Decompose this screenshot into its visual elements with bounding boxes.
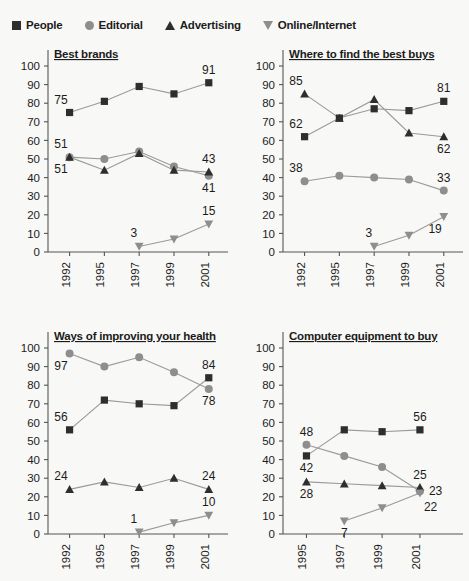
triangle-down-marker-icon (263, 21, 273, 30)
series-data-point (378, 463, 386, 471)
chart-title: Best brands (54, 48, 118, 60)
series-data-point (170, 90, 177, 97)
data-point-label: 38 (289, 161, 303, 175)
series-data-point (440, 98, 447, 105)
y-axis-tick-label: 10 (27, 228, 40, 240)
data-point-label: 78 (202, 394, 216, 408)
x-axis-tick-label: 1992 (60, 262, 72, 288)
series-data-point (205, 79, 212, 86)
series-data-point (302, 478, 311, 486)
y-axis-tick-label: 30 (27, 472, 40, 484)
series-data-point (204, 485, 213, 493)
data-point-label: 41 (202, 181, 216, 195)
series-data-point (100, 478, 109, 486)
y-axis-tick-label: 40 (27, 454, 40, 466)
series-data-point (405, 232, 414, 240)
data-point-label: 62 (437, 142, 451, 156)
data-point-label: 51 (54, 137, 68, 151)
y-axis-tick-label: 80 (27, 97, 40, 109)
x-axis-tick-label: 1992 (295, 262, 307, 288)
series-data-point (439, 213, 448, 221)
data-point-label: 10 (202, 495, 216, 509)
y-axis-tick-label: 20 (262, 209, 275, 221)
x-axis-tick-label: 1999 (164, 544, 176, 570)
x-axis-tick-label: 1997 (129, 262, 141, 288)
data-point-label: 15 (202, 204, 216, 218)
series-data-point (135, 529, 144, 537)
series-data-point (405, 107, 412, 114)
series-data-point (205, 374, 212, 381)
chart-title: Computer equipment to buy (289, 330, 438, 342)
series-data-point (370, 95, 379, 103)
y-axis-tick-label: 0 (34, 246, 40, 258)
data-point-label: 33 (437, 171, 451, 185)
series-data-point (340, 517, 349, 525)
chart-title: Where to find the best buys (289, 48, 434, 60)
y-axis-tick-label: 100 (256, 342, 275, 354)
y-axis-tick-label: 100 (256, 60, 275, 72)
x-axis-tick-label: 1999 (399, 262, 411, 288)
series-data-point (379, 428, 386, 435)
legend-label-online: Online/Internet (278, 19, 356, 31)
y-axis-tick-label: 50 (27, 435, 40, 447)
y-axis-tick-label: 10 (27, 510, 40, 522)
series-data-point (170, 474, 179, 482)
series-data-point (170, 402, 177, 409)
triangle-up-marker-icon (165, 21, 175, 30)
legend-item-advertising: Advertising (165, 19, 241, 31)
data-point-label: 19 (428, 222, 442, 236)
x-axis-tick-label: 1999 (372, 544, 384, 570)
series-data-point (440, 187, 448, 195)
y-axis-tick-label: 60 (262, 417, 275, 429)
data-point-label: 1 (130, 512, 137, 526)
y-axis-tick-label: 80 (262, 97, 275, 109)
data-point-label: 56 (413, 410, 427, 424)
x-axis-tick-label: 1997 (129, 544, 141, 570)
chart-title: Ways of improving your health (54, 330, 216, 342)
data-point-label: 48 (300, 425, 314, 439)
chart-panel-health: Ways of improving your health01020304050… (0, 320, 234, 581)
y-axis-tick-label: 100 (21, 60, 40, 72)
y-axis-tick-label: 60 (27, 417, 40, 429)
y-axis-tick-label: 30 (262, 472, 275, 484)
y-axis-tick-label: 0 (269, 246, 275, 258)
y-axis-tick-label: 70 (262, 398, 275, 410)
series-data-point (205, 385, 213, 393)
x-axis-tick-label: 1992 (60, 544, 72, 570)
y-axis-tick-label: 80 (262, 379, 275, 391)
series-data-point (135, 243, 144, 251)
y-axis-tick-label: 10 (262, 228, 275, 240)
series-data-point (371, 105, 378, 112)
data-point-label: 56 (54, 410, 68, 424)
series-data-point (301, 177, 309, 185)
legend-label-advertising: Advertising (180, 19, 241, 31)
data-point-label: 42 (300, 461, 314, 475)
y-axis-tick-label: 60 (27, 135, 40, 147)
series-data-point (335, 172, 343, 180)
y-axis-tick-label: 70 (262, 116, 275, 128)
x-axis-tick-label: 2001 (199, 262, 211, 288)
data-point-label: 75 (54, 93, 68, 107)
data-point-label: 7 (341, 526, 348, 540)
legend-label-editorial: Editorial (99, 19, 143, 31)
y-axis-tick-label: 70 (27, 398, 40, 410)
y-axis-tick-label: 10 (262, 510, 275, 522)
series-data-point (378, 504, 387, 512)
x-axis-tick-label: 1995 (94, 544, 106, 570)
series-data-point (101, 396, 108, 403)
series-data-point (416, 426, 423, 433)
y-axis-tick-label: 0 (269, 528, 275, 540)
series-data-point (341, 426, 348, 433)
data-point-label: 51 (54, 162, 68, 176)
data-point-label: 3 (365, 226, 372, 240)
series-data-point (301, 133, 308, 140)
y-axis-tick-label: 20 (262, 491, 275, 503)
series-data-point (66, 350, 74, 358)
data-point-label: 85 (289, 74, 303, 88)
series-data-point (303, 452, 310, 459)
series-line (306, 430, 419, 456)
series-data-point (370, 243, 379, 251)
series-data-point (204, 221, 213, 229)
series-data-point (170, 368, 178, 376)
x-axis-tick-label: 2001 (199, 544, 211, 570)
